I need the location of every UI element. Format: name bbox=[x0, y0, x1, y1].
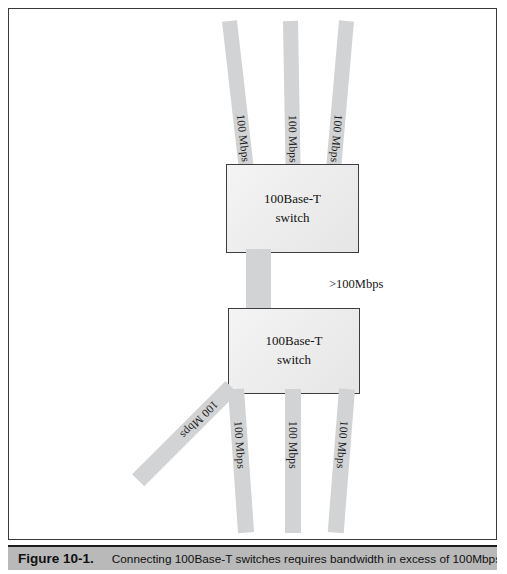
cable-bottom-4: 100 Mbps bbox=[328, 388, 355, 533]
lower-switch[interactable]: 100Base-T switch bbox=[228, 308, 360, 394]
figure-page: 100 Mbps 100 Mbps 100 Mbps 100Base-T swi… bbox=[0, 0, 507, 574]
cable-uplink bbox=[246, 249, 271, 313]
cable-label-top-1: 100 Mbps bbox=[234, 114, 251, 163]
figure-caption-number: Figure 10-1. bbox=[18, 551, 94, 566]
lower-switch-line1: 100Base-T bbox=[265, 332, 322, 351]
cable-label-bottom-4: 100 Mbps bbox=[335, 420, 351, 469]
network-diagram: 100 Mbps 100 Mbps 100 Mbps 100Base-T swi… bbox=[9, 9, 496, 539]
upper-switch-line2: switch bbox=[276, 209, 310, 228]
cable-bottom-2: 100 Mbps bbox=[228, 388, 254, 533]
cable-bottom-3: 100 Mbps bbox=[285, 389, 301, 533]
uplink-bandwidth-label: >100Mbps bbox=[329, 277, 383, 292]
upper-switch[interactable]: 100Base-T switch bbox=[226, 164, 359, 253]
cable-label-top-2: 100 Mbps bbox=[286, 115, 299, 163]
cable-label-top-3: 100 Mbps bbox=[328, 114, 344, 163]
cable-bottom-1-diagonal: 100 Mbps bbox=[132, 381, 237, 486]
lower-switch-line2: switch bbox=[277, 351, 311, 370]
figure-caption-text: Connecting 100Base-T switches requires b… bbox=[112, 552, 497, 566]
figure-frame: 100 Mbps 100 Mbps 100 Mbps 100Base-T swi… bbox=[8, 8, 497, 540]
cable-top-3: 100 Mbps bbox=[325, 20, 354, 179]
figure-caption-bar: Figure 10-1. Connecting 100Base-T switch… bbox=[8, 545, 497, 570]
cable-label-bottom-1: 100 Mbps bbox=[178, 398, 220, 440]
upper-switch-line1: 100Base-T bbox=[264, 190, 321, 209]
cable-label-bottom-3: 100 Mbps bbox=[287, 421, 299, 469]
cable-label-bottom-2: 100 Mbps bbox=[232, 421, 247, 470]
cable-top-1: 100 Mbps bbox=[222, 20, 255, 179]
cable-top-2: 100 Mbps bbox=[283, 21, 301, 179]
